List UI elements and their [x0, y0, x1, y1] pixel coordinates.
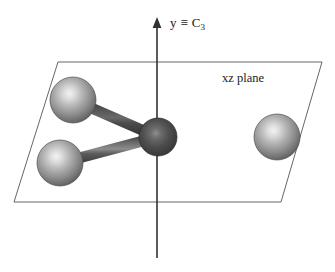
- ligand-atom-right: [254, 114, 300, 160]
- axis-label-c: C: [192, 15, 201, 30]
- ligand-atom-lower-left: [37, 140, 83, 186]
- axis-label-c-order: 3: [201, 22, 206, 32]
- molecule-symmetry-figure: y≡C3 xz plane: [0, 0, 335, 272]
- xz-plane-label: xz plane: [222, 71, 264, 85]
- ligand-atom-upper-left: [50, 77, 96, 123]
- axis-label-equiv: ≡: [181, 15, 188, 30]
- axis-label-y: y: [170, 15, 177, 30]
- figure-canvas: y≡C3 xz plane: [0, 0, 335, 272]
- central-atom: [139, 118, 177, 156]
- c3-axis-label: y≡C3: [170, 15, 206, 32]
